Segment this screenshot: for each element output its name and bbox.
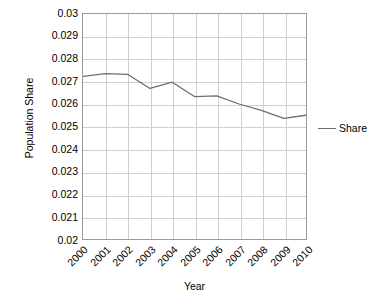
legend-line-marker-share — [318, 128, 336, 129]
y-tick-label: 0.03 — [30, 8, 78, 19]
y-tick-label: 0.025 — [30, 121, 78, 132]
series-svg — [83, 14, 306, 239]
y-tick-label: 0.023 — [30, 166, 78, 177]
y-tick-label: 0.026 — [30, 98, 78, 109]
x-axis-title: Year — [82, 280, 307, 292]
y-tick-label: 0.027 — [30, 76, 78, 87]
legend-label-share: Share — [339, 122, 367, 134]
y-tick-label: 0.021 — [30, 212, 78, 223]
line-chart: Population Share 0.030.0290.0280.0270.02… — [0, 0, 384, 300]
y-tick-label: 0.029 — [30, 30, 78, 41]
y-tick-label: 0.02 — [30, 235, 78, 246]
y-tick-label: 0.028 — [30, 53, 78, 64]
chart-legend: Share — [318, 122, 367, 134]
y-tick-label: 0.022 — [30, 189, 78, 200]
series-line-share — [83, 74, 306, 119]
plot-area — [82, 13, 307, 240]
y-tick-label: 0.024 — [30, 144, 78, 155]
